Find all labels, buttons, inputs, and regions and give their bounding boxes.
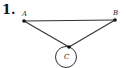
label-c: C: [64, 53, 70, 61]
edge-a-c: [24, 21, 69, 47]
edge-a-b: [24, 20, 115, 21]
label-b: B: [112, 9, 118, 17]
vertex-a: [22, 19, 26, 23]
edge-b-c: [69, 20, 115, 47]
vertex-b: [113, 18, 117, 22]
label-a: A: [21, 10, 27, 18]
vertex-c: [67, 45, 71, 49]
graph-diagram: A B C: [0, 0, 126, 68]
